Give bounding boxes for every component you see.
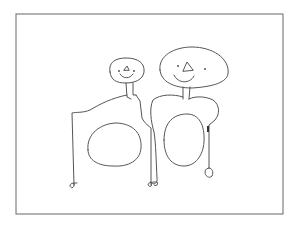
right-eye <box>133 70 135 72</box>
right-arm-mark <box>207 126 209 132</box>
left-eye <box>177 65 179 67</box>
left-eye <box>118 70 120 72</box>
picture-frame <box>16 14 283 214</box>
drawing-canvas <box>0 0 296 227</box>
right-eye <box>204 68 206 70</box>
